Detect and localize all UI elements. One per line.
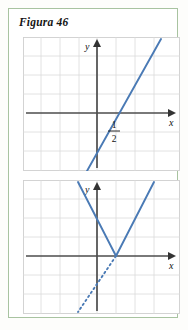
chart-panel-absolute-value: x y	[23, 180, 180, 314]
y-axis-arrow-icon	[93, 182, 101, 190]
y-axis-arrow-icon	[93, 39, 101, 47]
figure-card: Figura 46	[8, 8, 178, 318]
grid-lines	[23, 37, 180, 171]
fraction-numerator: 1	[112, 120, 117, 130]
chart-panel-line: x y 1 2	[23, 37, 180, 171]
fraction-denominator: 2	[112, 134, 117, 144]
absolute-value-plot-svg: x y	[23, 180, 180, 314]
plot-border	[24, 181, 180, 314]
y-axis-label: y	[84, 184, 90, 195]
line-plot-svg: x y 1 2	[23, 37, 180, 171]
figure-page: Figura 46	[0, 0, 188, 330]
y-axis-label: y	[84, 41, 90, 52]
x-axis-arrow-icon	[168, 252, 176, 260]
figure-title: Figura 46	[19, 16, 68, 28]
x-axis-label: x	[168, 260, 174, 271]
x-axis	[26, 109, 176, 117]
x-axis-arrow-icon	[168, 109, 176, 117]
grid-lines	[23, 180, 180, 314]
y-axis	[93, 182, 101, 311]
x-axis-label: x	[168, 117, 174, 128]
x-axis	[26, 252, 176, 260]
plot-border	[24, 38, 180, 171]
